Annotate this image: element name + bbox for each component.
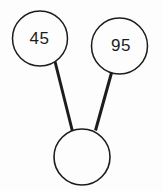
diagram-svg: 45 95 bbox=[0, 0, 163, 191]
number-bond-diagram: 45 95 bbox=[0, 0, 163, 191]
whole-node-circle bbox=[54, 129, 110, 185]
edge-left-line bbox=[55, 62, 73, 132]
edge-right-line bbox=[96, 71, 113, 131]
part-node-right-value: 95 bbox=[111, 36, 131, 55]
part-node-left-value: 45 bbox=[30, 29, 50, 48]
